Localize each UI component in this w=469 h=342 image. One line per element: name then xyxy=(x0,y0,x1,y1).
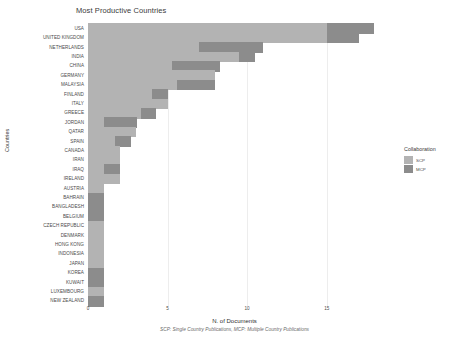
y-axis-tick-label: INDONESIA xyxy=(58,251,84,257)
legend-swatch-scp xyxy=(404,156,413,164)
y-axis-tick-label: MALAYSIA xyxy=(61,82,84,88)
bar-row[interactable] xyxy=(88,296,104,307)
y-axis-tick-label: JAPAN xyxy=(69,261,84,267)
bar-segment-mcp[interactable] xyxy=(177,80,215,91)
bar-segment-mcp[interactable] xyxy=(88,296,104,307)
chart-container: Most Productive Countries USAUNITED KING… xyxy=(0,0,469,342)
x-axis-ticks: 051015 xyxy=(88,306,384,318)
legend-title: Collaboration xyxy=(404,146,466,152)
x-axis-tick-label: 15 xyxy=(324,306,329,311)
x-axis-tick-label: 10 xyxy=(245,306,250,311)
gridline xyxy=(247,24,248,306)
y-axis-tick-label: UNITED KINGDOM xyxy=(43,35,84,41)
y-axis-tick-label: BAHRAIN xyxy=(63,195,84,201)
y-axis-tick-label: CANADA xyxy=(65,148,84,154)
legend-item[interactable]: MCP xyxy=(404,165,466,173)
y-axis-tick-label: KOREA xyxy=(68,270,84,276)
y-axis-tick-label: GERMANY xyxy=(60,73,84,79)
bar-segment-mcp[interactable] xyxy=(327,33,359,44)
y-axis-tick-label: AUSTRIA xyxy=(64,186,84,192)
y-axis-tick-label: IRAQ xyxy=(73,167,84,173)
legend-label: MCP xyxy=(416,167,426,172)
y-axis-tick-label: LUXEMBOURG xyxy=(51,289,84,295)
y-axis-tick-label: ITALY xyxy=(72,101,84,107)
y-axis-tick-label: QATAR xyxy=(69,129,84,135)
y-axis-tick-label: BELGIUM xyxy=(63,214,84,220)
legend: Collaboration SCPMCP xyxy=(404,146,466,174)
chart-caption: SCP: Single Country Publications, MCP: M… xyxy=(0,327,469,332)
x-axis-title: N. of Documents xyxy=(0,318,469,324)
y-axis-tick-label: KUWAIT xyxy=(66,280,84,286)
plot-area xyxy=(88,24,384,306)
y-axis-tick-label: CZECH REPUBLIC xyxy=(43,223,84,229)
gridline xyxy=(327,24,328,306)
y-axis-tick-label: HONG KONG xyxy=(55,242,84,248)
legend-entries: SCPMCP xyxy=(404,156,466,173)
legend-label: SCP xyxy=(416,158,425,163)
y-axis-tick-label: CHINA xyxy=(69,63,84,69)
y-axis-tick-label: IRELAND xyxy=(64,176,84,182)
y-axis-tick-label: FINLAND xyxy=(64,92,84,98)
y-axis-tick-label: SPAIN xyxy=(70,139,84,145)
legend-swatch-mcp xyxy=(404,165,413,173)
page-title: Most Productive Countries xyxy=(76,6,166,15)
y-axis-tick-label: GREECE xyxy=(64,110,84,116)
y-axis-tick-label: NEW ZEALAND xyxy=(50,298,84,304)
y-axis-tick-label: INDIA xyxy=(71,54,84,60)
bar-segment-mcp[interactable] xyxy=(141,108,157,119)
y-axis-tick-label: IRAN xyxy=(73,157,84,163)
legend-item[interactable]: SCP xyxy=(404,156,466,164)
y-axis-tick-label: USA xyxy=(74,26,84,32)
bar-segment-mcp[interactable] xyxy=(239,52,255,63)
y-axis-tick-label: BANGLADESH xyxy=(52,204,84,210)
y-axis-title: Countries xyxy=(4,129,10,152)
y-axis-tick-label: JORDAN xyxy=(65,120,84,126)
y-axis-tick-label: DENMARK xyxy=(61,233,84,239)
x-axis-tick-label: 0 xyxy=(87,306,90,311)
y-axis-labels: USAUNITED KINGDOMNETHERLANDSINDIACHINAGE… xyxy=(0,24,84,306)
x-axis-tick-label: 5 xyxy=(166,306,169,311)
y-axis-tick-label: NETHERLANDS xyxy=(49,45,84,51)
